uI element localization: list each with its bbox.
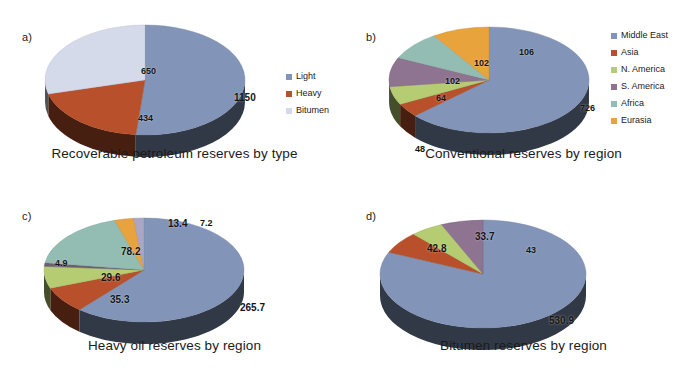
caption-b: Conventional reserves by region xyxy=(349,146,698,161)
legend-swatch-icon xyxy=(611,84,617,90)
pie-value-label: 29.6 xyxy=(101,272,120,283)
legend-item[interactable]: Heavy xyxy=(286,85,329,102)
legend-label: Bitumen xyxy=(296,102,329,119)
pie-value-label: 13.4 xyxy=(168,218,187,229)
caption-c: Heavy oil reserves by region xyxy=(0,338,349,353)
panel-b: b) 7264864102102106 Middle EastAsiaN. Am… xyxy=(349,0,698,188)
legend-label: Asia xyxy=(621,44,639,61)
panel-d: d) 530.942.833.743 N.AmericaAsiaRussiaAf… xyxy=(349,188,698,376)
pie-value-label: 726 xyxy=(580,103,595,113)
pie-value-label: 35.3 xyxy=(110,294,129,305)
legend-label: S. America xyxy=(621,78,665,95)
caption-a: Recoverable petroleum reserves by type xyxy=(0,146,349,161)
panel-c: c) 265.735.329.64.978.213.47.2 S. Americ… xyxy=(0,188,349,376)
legend-swatch-icon xyxy=(611,118,617,124)
pie-a-value-labels: 1150434650 xyxy=(38,18,253,143)
pie-value-label: 78.2 xyxy=(121,246,140,257)
pie-value-label: 530.9 xyxy=(549,315,574,326)
legend-swatch-icon xyxy=(611,101,617,107)
legend-swatch-icon xyxy=(286,108,292,114)
panel-a: a) 1150434650 LightHeavyBitumen Recovera… xyxy=(0,0,349,188)
pie-value-label: 102 xyxy=(474,58,489,68)
pie-value-label: 64 xyxy=(436,93,446,103)
legend-label: N. America xyxy=(621,61,665,78)
legend-item[interactable]: Eurasia xyxy=(611,112,668,129)
pie-value-label: 4.9 xyxy=(55,258,68,268)
pie-value-label: 1150 xyxy=(234,92,256,103)
pie-value-label: 650 xyxy=(141,66,156,76)
pie-value-label: 106 xyxy=(519,47,534,57)
caption-d: Bitumen reserves by region xyxy=(349,338,698,353)
legend-label: Heavy xyxy=(296,85,322,102)
legend-item[interactable]: S. America xyxy=(611,78,668,95)
legend-b: Middle EastAsiaN. AmericaS. AmericaAfric… xyxy=(611,27,668,129)
pie-value-label: 265.7 xyxy=(240,302,265,313)
legend-item[interactable]: Africa xyxy=(611,95,668,112)
pie-value-label: 102 xyxy=(445,76,460,86)
panel-letter-c: c) xyxy=(22,210,32,222)
legend-label: Middle East xyxy=(621,27,668,44)
legend-swatch-icon xyxy=(286,74,292,80)
legend-item[interactable]: Bitumen xyxy=(286,102,329,119)
legend-item[interactable]: N. America xyxy=(611,61,668,78)
legend-item[interactable]: Light xyxy=(286,68,329,85)
pie-value-label: 43 xyxy=(526,245,536,255)
legend-item[interactable]: Middle East xyxy=(611,27,668,44)
panel-letter-b: b) xyxy=(366,31,376,43)
legend-label: Africa xyxy=(621,95,644,112)
legend-swatch-icon xyxy=(286,91,292,97)
pie-value-label: 42.8 xyxy=(427,243,446,254)
pie-b-value-labels: 7264864102102106 xyxy=(379,18,599,143)
legend-swatch-icon xyxy=(611,67,617,73)
legend-a: LightHeavyBitumen xyxy=(286,68,329,119)
pie-c-value-labels: 265.735.329.64.978.213.47.2 xyxy=(34,210,249,332)
legend-item[interactable]: Asia xyxy=(611,44,668,61)
legend-label: Light xyxy=(296,68,316,85)
figure-grid: a) 1150434650 LightHeavyBitumen Recovera… xyxy=(0,0,698,376)
pie-value-label: 33.7 xyxy=(475,231,494,242)
panel-letter-a: a) xyxy=(22,31,32,43)
pie-value-label: 434 xyxy=(138,113,153,123)
legend-swatch-icon xyxy=(611,33,617,39)
pie-value-label: 7.2 xyxy=(200,218,213,228)
pie-d-value-labels: 530.942.833.743 xyxy=(371,214,596,339)
legend-swatch-icon xyxy=(611,50,617,56)
legend-label: Eurasia xyxy=(621,112,652,129)
